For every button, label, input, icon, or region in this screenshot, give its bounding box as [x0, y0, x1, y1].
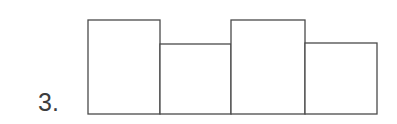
figure-container: 3. — [0, 0, 397, 124]
bars-group — [88, 20, 377, 114]
bar-4 — [305, 43, 377, 114]
bar-1 — [88, 20, 160, 114]
bar-3 — [231, 20, 305, 114]
bar-chart — [0, 0, 397, 124]
bar-2 — [160, 44, 231, 114]
